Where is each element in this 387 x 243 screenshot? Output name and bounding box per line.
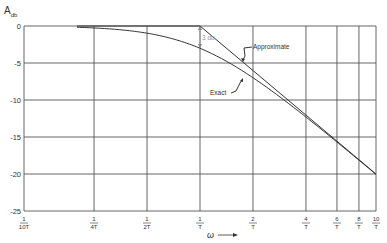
svg-text:T: T xyxy=(251,224,255,230)
svg-text:ω: ω xyxy=(207,230,214,240)
approximate-annotation: Approximate xyxy=(241,43,290,62)
y-tick-label: -20 xyxy=(10,170,21,179)
svg-text:1: 1 xyxy=(92,216,96,222)
x-tick-label: 110T xyxy=(19,216,30,230)
grid xyxy=(24,26,376,211)
svg-text:4: 4 xyxy=(304,216,308,222)
three-db-marker: 3 db xyxy=(198,26,215,48)
x-tick-label: 2T xyxy=(249,216,257,230)
svg-text:T: T xyxy=(357,224,361,230)
x-tick-label: 10T xyxy=(372,216,380,230)
svg-text:8: 8 xyxy=(357,216,361,222)
exact-curve xyxy=(77,27,376,174)
x-axis-ticks: 110T14T12T1T2T4T6T8T10T xyxy=(19,216,380,230)
x-tick-label: 1T xyxy=(196,216,204,230)
svg-text:10: 10 xyxy=(373,216,380,222)
x-tick-label: 6T xyxy=(333,216,341,230)
svg-text:T: T xyxy=(304,224,308,230)
y-tick-label: -10 xyxy=(10,96,21,105)
approximate-label: Approximate xyxy=(253,43,290,51)
exact-annotation: Exact xyxy=(210,78,243,96)
svg-text:2: 2 xyxy=(251,216,255,222)
svg-text:T: T xyxy=(374,224,378,230)
svg-text:1: 1 xyxy=(145,216,149,222)
x-tick-label: 4T xyxy=(302,216,310,230)
y-tick-label: -5 xyxy=(14,59,21,68)
svg-text:T: T xyxy=(198,224,202,230)
arrow-right-icon xyxy=(233,233,238,237)
exact-label: Exact xyxy=(210,89,226,96)
x-tick-label: 8T xyxy=(355,216,363,230)
svg-text:10T: 10T xyxy=(19,224,30,230)
x-tick-label: 14T xyxy=(90,216,98,230)
svg-text:4T: 4T xyxy=(91,224,98,230)
y-tick-label: 0 xyxy=(17,22,21,31)
y-tick-label: -25 xyxy=(10,207,21,216)
svg-text:6: 6 xyxy=(335,216,339,222)
svg-text:1: 1 xyxy=(22,216,26,222)
svg-text:T: T xyxy=(335,224,339,230)
three-db-label: 3 db xyxy=(202,34,215,41)
bode-magnitude-chart: 0-5-10-15-20-25 110T14T12T1T2T4T6T8T10T … xyxy=(0,0,387,243)
y-tick-label: -15 xyxy=(10,133,21,142)
y-axis-title: Adb xyxy=(4,5,18,18)
svg-text:1: 1 xyxy=(198,216,202,222)
x-tick-label: 12T xyxy=(143,216,151,230)
x-axis-title: ω xyxy=(207,230,238,240)
svg-text:2T: 2T xyxy=(144,224,151,230)
y-axis-ticks: 0-5-10-15-20-25 xyxy=(10,22,21,216)
leader-arrow-icon xyxy=(240,78,243,82)
